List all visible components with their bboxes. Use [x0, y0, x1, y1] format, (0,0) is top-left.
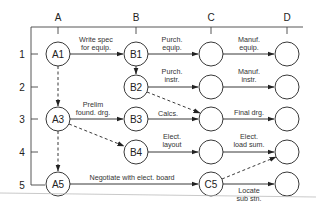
column-label-c: C: [207, 12, 214, 23]
dummy-edge-c5-d4: [222, 157, 276, 179]
node-label-a5: A5: [52, 179, 65, 190]
node-d3: [275, 107, 299, 131]
row-label-1: 1: [19, 49, 25, 60]
dummy-edge-a3-b4: [69, 124, 124, 146]
edge-label-c4-d4-line2: load sum.: [233, 140, 264, 149]
node-d5: [275, 172, 299, 196]
edge-label-b3-c3: Calcs.: [158, 109, 178, 118]
node-d4: [275, 140, 299, 164]
activity-network-diagram: A B C D 1 2 3 4 5: [0, 0, 316, 211]
node-label-b1: B1: [130, 49, 143, 60]
edge-label-c3-d3: Final drg.: [234, 108, 264, 117]
edge-label-c1-d1-line2: equip.: [239, 43, 259, 52]
row-label-5: 5: [19, 180, 25, 191]
page-edge: [0, 193, 316, 197]
node-c2: [199, 75, 223, 99]
node-label-c5: C5: [205, 179, 218, 190]
edge-label-a5-c5: Negotiate with elect. board: [89, 173, 174, 182]
node-c3: [199, 107, 223, 131]
node-label-b2: B2: [130, 82, 143, 93]
column-label-d: D: [283, 12, 290, 23]
node-d2: [275, 75, 299, 99]
edge-label-c5-d5-line2: sub stn.: [236, 194, 261, 203]
node-c4: [199, 140, 223, 164]
edge-label-a1-b1-line2: for equip.: [81, 43, 111, 52]
node-d1: [275, 42, 299, 66]
node-label-a1: A1: [52, 49, 65, 60]
row-label-4: 4: [19, 147, 25, 158]
edge-label-c2-d2-line2: instr.: [241, 75, 256, 84]
edge-label-b1-c1-line2: equip.: [162, 43, 182, 52]
column-label-a: A: [55, 12, 62, 23]
node-label-b3: B3: [130, 114, 143, 125]
row-label-3: 3: [19, 114, 25, 125]
row-label-2: 2: [19, 82, 25, 93]
edge-label-b2-c2-line2: instr.: [164, 75, 179, 84]
column-label-b: B: [133, 12, 140, 23]
node-label-b4: B4: [130, 147, 143, 158]
edge-label-b4-c4-line2: layout: [162, 140, 181, 149]
node-label-a3: A3: [52, 114, 65, 125]
node-c1: [199, 42, 223, 66]
edge-label-a3-b3-line2: found. drg.: [76, 108, 110, 117]
